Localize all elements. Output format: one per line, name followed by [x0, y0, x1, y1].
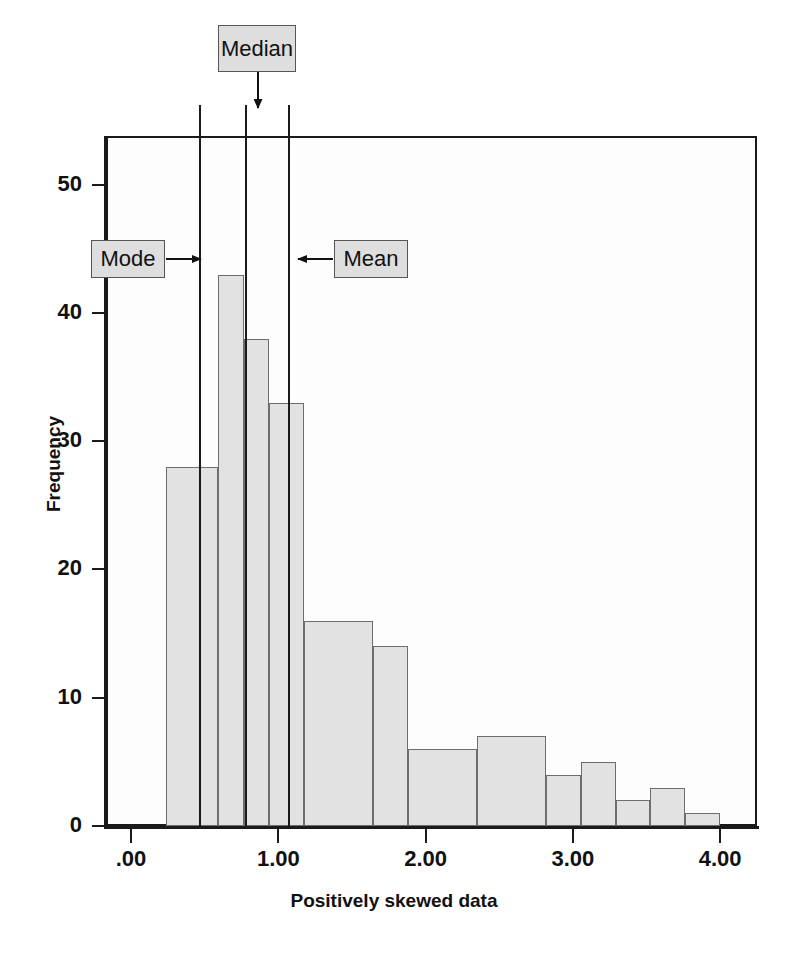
mean-reference-line — [288, 105, 290, 826]
callout-mean[interactable]: Mean — [334, 240, 408, 278]
y-axis-title: Frequency — [43, 384, 65, 544]
y-axis-tick — [92, 312, 105, 314]
x-axis-title: Positively skewed data — [0, 890, 788, 912]
median-reference-line — [245, 105, 247, 826]
callout-mode-label: Mode — [100, 246, 155, 272]
x-axis-tick — [425, 829, 427, 843]
histogram-bar — [244, 339, 270, 826]
y-axis-tick — [92, 697, 105, 699]
y-axis-tick — [92, 440, 105, 442]
histogram-bar — [166, 467, 218, 826]
histogram-bar — [218, 275, 244, 826]
histogram-figure: 01020304050 Frequency .001.002.003.004.0… — [0, 0, 788, 955]
y-axis-tick-label: 50 — [58, 171, 82, 197]
callout-mode[interactable]: Mode — [91, 240, 165, 278]
bars-layer — [106, 136, 757, 826]
callout-median-label: Median — [221, 36, 293, 62]
x-axis-tick — [572, 829, 574, 843]
callout-mean-label: Mean — [343, 246, 398, 272]
y-axis-tick-label: 20 — [58, 555, 82, 581]
callout-median[interactable]: Median — [218, 25, 296, 72]
x-axis-tick-label: 1.00 — [257, 846, 300, 872]
x-axis-tick-label: 4.00 — [699, 846, 742, 872]
histogram-bar — [304, 621, 373, 826]
x-axis-tick — [277, 829, 279, 843]
y-axis-tick — [92, 184, 105, 186]
histogram-bar — [685, 813, 720, 826]
histogram-bar — [408, 749, 477, 826]
x-axis-tick — [719, 829, 721, 843]
y-axis-tick — [92, 568, 105, 570]
histogram-bar — [477, 736, 546, 826]
x-axis-tick-label: 3.00 — [551, 846, 594, 872]
histogram-bar — [581, 762, 616, 826]
x-axis-tick-label: 2.00 — [404, 846, 447, 872]
x-axis-tick-label: .00 — [116, 846, 147, 872]
histogram-bar — [616, 800, 651, 826]
x-axis-tick — [130, 829, 132, 843]
x-axis-spine — [104, 826, 759, 829]
mode-reference-line — [199, 105, 201, 826]
histogram-bar — [373, 646, 408, 826]
histogram-bar — [546, 775, 581, 826]
y-axis-tick-label: 10 — [58, 684, 82, 710]
histogram-bar — [650, 788, 685, 826]
y-axis-tick-label: 0 — [70, 812, 82, 838]
y-axis-tick-label: 40 — [58, 299, 82, 325]
